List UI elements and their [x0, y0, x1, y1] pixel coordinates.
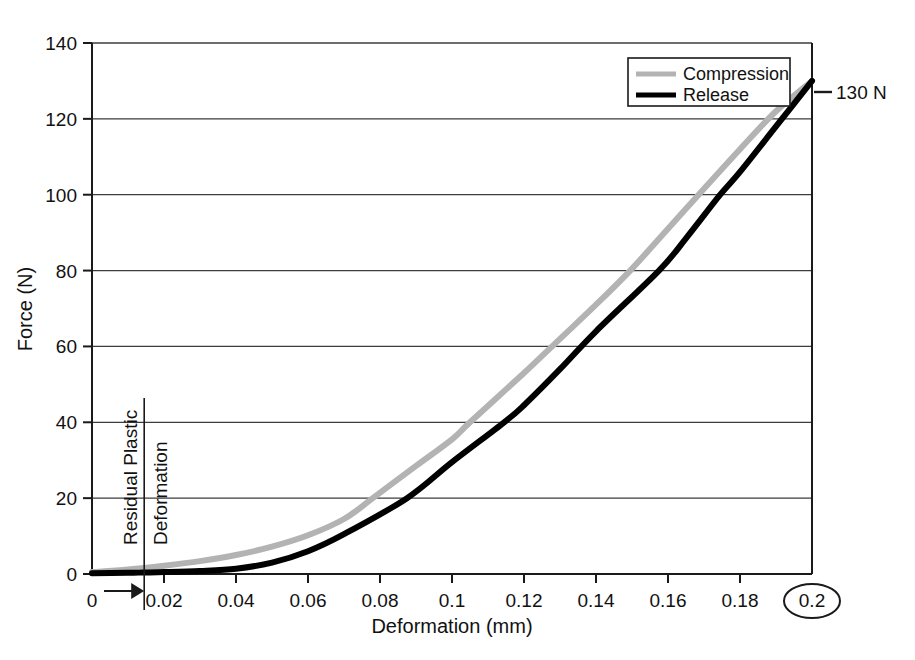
legend: Compression Release	[628, 58, 790, 106]
x-axis-title: Deformation (mm)	[371, 615, 532, 637]
chart-svg: 020406080100120140 00.020.040.060.080.10…	[0, 0, 915, 660]
x-tick-label: 0.14	[578, 590, 615, 611]
y-tick-label: 40	[56, 412, 77, 433]
x-tick-label: 0.02	[146, 590, 183, 611]
y-tick-label: 120	[45, 109, 77, 130]
x-tick-label: 0.2	[799, 590, 825, 611]
force-deformation-chart: 020406080100120140 00.020.040.060.080.10…	[0, 0, 915, 660]
y-tick-label: 0	[66, 564, 77, 585]
residual-plastic-deformation-label-line2: Deformation	[150, 442, 171, 546]
y-axis-ticks: 020406080100120140	[45, 33, 92, 585]
peak-force-label: 130 N	[836, 82, 887, 103]
x-tick-label: 0	[87, 590, 98, 611]
x-tick-label: 0.04	[218, 590, 255, 611]
y-tick-label: 60	[56, 336, 77, 357]
residual-plastic-deformation-label-line1: Residual Plastic	[120, 410, 141, 545]
x-tick-label: 0.1	[439, 590, 465, 611]
plot-area-background	[92, 43, 812, 574]
y-tick-label: 80	[56, 261, 77, 282]
y-tick-label: 140	[45, 33, 77, 54]
x-tick-label: 0.12	[506, 590, 543, 611]
x-tick-label: 0.06	[290, 590, 327, 611]
legend-label-compression: Compression	[683, 64, 789, 84]
x-axis-ticks: 00.020.040.060.080.10.120.140.160.180.2	[87, 574, 826, 611]
y-axis-title: Force (N)	[14, 267, 36, 351]
residual-plastic-deformation-arrow	[104, 583, 144, 599]
x-tick-label: 0.08	[362, 590, 399, 611]
y-tick-label: 100	[45, 185, 77, 206]
x-tick-label: 0.18	[722, 590, 759, 611]
y-tick-label: 20	[56, 488, 77, 509]
legend-label-release: Release	[683, 85, 749, 105]
x-tick-label: 0.16	[650, 590, 687, 611]
